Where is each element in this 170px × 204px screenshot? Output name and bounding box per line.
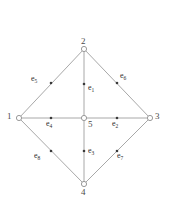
edge-midpoint-marker-e5 <box>50 82 53 85</box>
edge-label-e6: e6 <box>120 72 126 80</box>
edge-label-subscript-e2: 2 <box>116 123 119 129</box>
edge-label-e2: e2 <box>112 120 118 128</box>
edge-label-e1: e1 <box>88 84 94 92</box>
vertex-node-1 <box>16 115 21 120</box>
vertex-node-5 <box>81 115 86 120</box>
edge-label-subscript-e1: 1 <box>92 87 95 93</box>
vertex-label-3: 3 <box>155 112 160 121</box>
edge-label-e3: e3 <box>88 147 94 155</box>
edge-label-subscript-e7: 7 <box>121 155 124 161</box>
vertex-label-4: 4 <box>81 188 86 197</box>
vertex-label-1: 1 <box>7 112 12 121</box>
vertex-label-5: 5 <box>88 120 93 129</box>
edge-label-subscript-e5: 5 <box>35 78 38 84</box>
vertex-node-3 <box>147 115 152 120</box>
edge-midpoint-marker-e2 <box>116 117 119 120</box>
vertex-node-2 <box>81 46 86 51</box>
edge-label-e5: e5 <box>31 75 37 83</box>
edge-label-e8: e8 <box>34 152 40 160</box>
vertex-label-2: 2 <box>81 37 86 46</box>
edge-midpoint-marker-e6 <box>116 82 119 85</box>
vertex-node-4 <box>81 181 86 186</box>
edge-midpoint-marker-e1 <box>83 83 86 86</box>
edge-label-e4: e4 <box>46 120 52 128</box>
edge-label-subscript-e4: 4 <box>50 123 53 129</box>
edge-midpoint-marker-e3 <box>83 150 86 153</box>
graph-figure: 12345 e1e2e3e4e5e6e7e8 <box>0 0 170 204</box>
edge-label-subscript-e8: 8 <box>38 155 41 161</box>
edge-midpoint-marker-e8 <box>50 150 53 153</box>
graph-canvas <box>0 0 170 204</box>
edge-label-subscript-e6: 6 <box>124 75 127 81</box>
edge-label-subscript-e3: 3 <box>92 150 95 156</box>
edge-label-e7: e7 <box>117 152 123 160</box>
edge-midpoint-marker-e4 <box>50 117 53 120</box>
